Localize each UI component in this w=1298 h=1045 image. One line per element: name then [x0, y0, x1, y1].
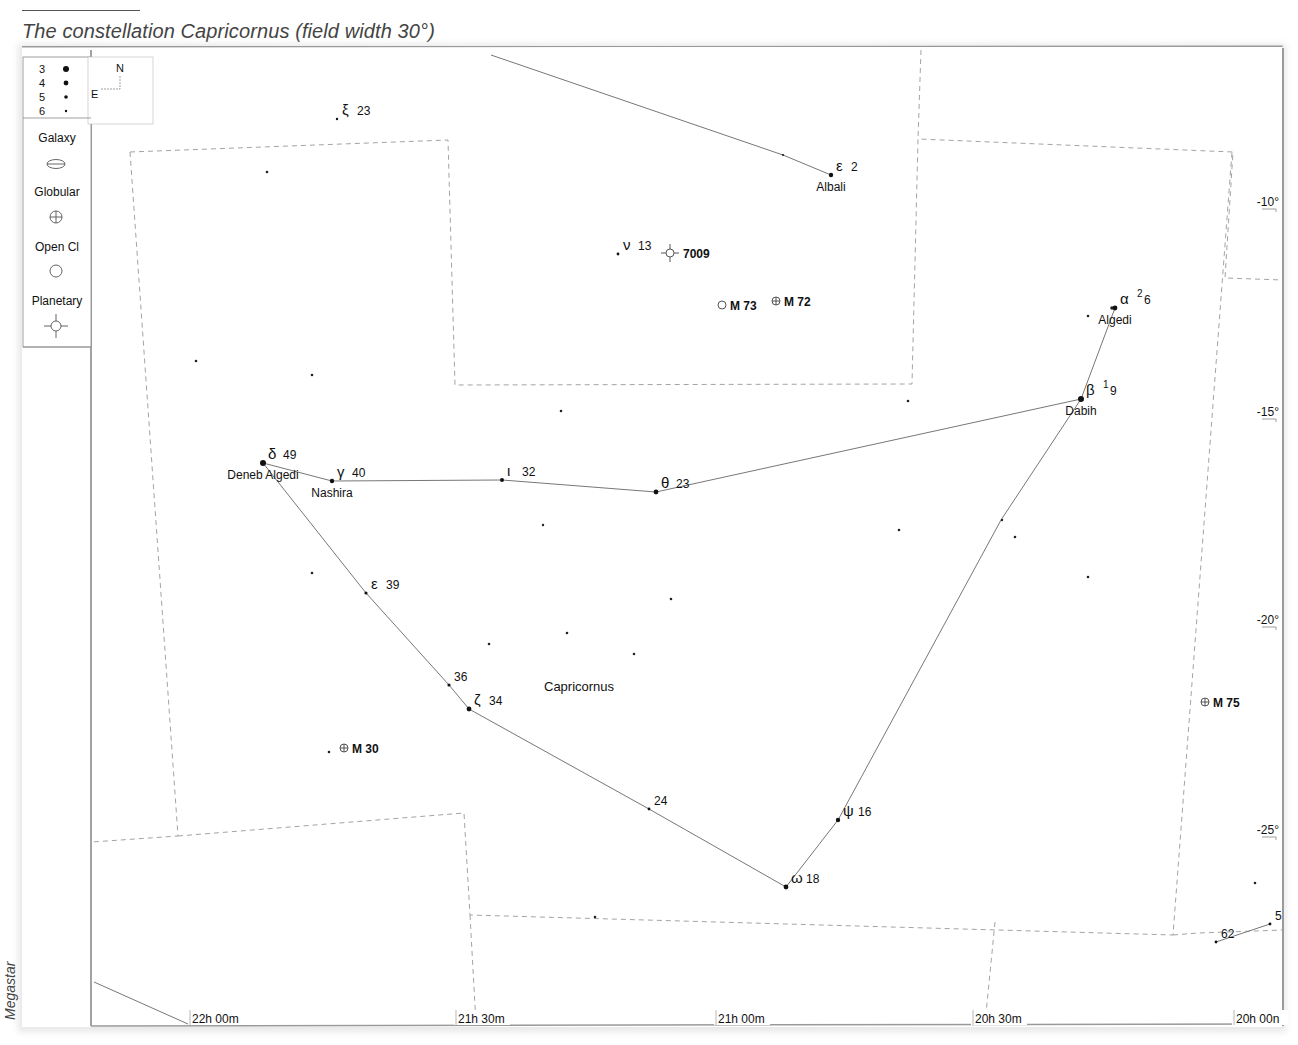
boundary-segment: [178, 152, 1232, 935]
globular-cluster-icon: [50, 211, 62, 223]
field-star: [1001, 519, 1003, 521]
star-superscript: 2: [1137, 288, 1143, 299]
star-superscript: 1: [1103, 379, 1109, 390]
star-dot: [260, 460, 266, 466]
field-star: [328, 751, 331, 754]
dso-7009: 7009: [661, 244, 710, 262]
constellation-figure-lines: [94, 55, 1270, 1024]
legend-planetary-label: Planetary: [32, 294, 83, 308]
field-star: [1254, 882, 1257, 885]
star-greek-letter: α: [1120, 290, 1129, 307]
dec-axis-label: -10°: [1257, 195, 1279, 209]
boundary-segment: [92, 152, 178, 842]
star-flamsteed-number: 36: [454, 670, 468, 684]
dso-label: 7009: [683, 247, 710, 261]
dec-axis-label: -25°: [1257, 823, 1279, 837]
star-epsilon-39: ε39: [364, 575, 399, 595]
boundary-segment: [985, 922, 995, 1024]
star-flamsteed-number: 32: [522, 465, 536, 479]
dso-m73: M 73: [718, 299, 757, 313]
field-star: [542, 524, 544, 526]
star-24: 24: [648, 794, 668, 810]
star-dot: [330, 479, 334, 483]
magnitude-label: 5: [39, 91, 45, 103]
field-star: [898, 529, 901, 532]
compass-east-label: E: [91, 88, 98, 100]
star-proper-name: Nashira: [311, 486, 353, 500]
star-flamsteed-number: 24: [654, 794, 668, 808]
dso-label: M 72: [784, 295, 811, 309]
legend: 3456 N E Galaxy Globular Open Cl Planeta…: [23, 57, 153, 347]
magnitude-label: 6: [39, 105, 45, 117]
star-dot: [836, 818, 840, 822]
ra-axis-label: 20h 00n: [1236, 1012, 1279, 1026]
legend-galaxy-label: Galaxy: [38, 131, 75, 145]
star-flamsteed-number: 6: [1144, 293, 1151, 307]
star-zeta: ζ34: [467, 691, 503, 711]
planetary-nebula-icon: [666, 249, 674, 257]
star-dot: [648, 808, 651, 811]
star-flamsteed-number: 23: [676, 477, 690, 491]
star-dot: [364, 591, 367, 594]
dso-label: M 30: [352, 742, 379, 756]
field-star: [566, 632, 569, 635]
figure-line: [263, 308, 1115, 887]
star-xi: ξ23: [336, 101, 371, 120]
legend-open-cluster-label: Open Cl: [35, 240, 79, 254]
star-dot: [447, 683, 450, 686]
dec-axis-label: -15°: [1257, 405, 1279, 419]
star-5x: 5: [1269, 909, 1282, 925]
star-proper-name: Algedi: [1098, 313, 1131, 327]
star-flamsteed-number: 13: [638, 239, 652, 253]
dso-m72: M 72: [772, 295, 811, 309]
star-dot: [654, 490, 659, 495]
star-greek-letter: ι: [507, 462, 510, 479]
field-star: [633, 653, 636, 656]
star-dot: [500, 478, 504, 482]
boundary-segment: [470, 915, 476, 1024]
star-flamsteed-number: 16: [858, 805, 872, 819]
star-36: 36: [447, 670, 467, 687]
figure-line: [94, 982, 188, 1024]
ra-axis-label: 21h 00m: [718, 1012, 765, 1026]
star-omega: ω18: [784, 869, 820, 889]
star-greek-letter: θ: [661, 474, 669, 491]
ra-axis-label: 22h 00m: [192, 1012, 239, 1026]
field-star: [1014, 536, 1017, 539]
constellation-name-label: Capricornus: [544, 679, 615, 694]
star-flamsteed-number: 49: [283, 448, 297, 462]
star-dot: [1269, 923, 1272, 926]
field-star: [195, 360, 198, 363]
star-greek-letter: δ: [268, 445, 276, 462]
star-flamsteed-number: 5: [1275, 909, 1282, 923]
star-epsilon-2: ε2Albali: [816, 157, 858, 194]
star-beta: β19Dabih: [1065, 379, 1117, 418]
ra-axis-label: 20h 30m: [975, 1012, 1022, 1026]
star-dot: [617, 253, 620, 256]
star-greek-letter: ε: [371, 575, 378, 592]
star-flamsteed-number: 2: [851, 160, 858, 174]
figure-line: [491, 55, 831, 175]
star-flamsteed-number: 34: [489, 694, 503, 708]
star-dot: [1113, 306, 1118, 311]
magnitude-dot-icon: [64, 81, 69, 86]
field-star: [1087, 576, 1090, 579]
field-star: [560, 410, 563, 413]
legend-globular-label: Globular: [34, 185, 79, 199]
field-star: [311, 572, 314, 575]
field-star: [594, 916, 597, 919]
star-dot: [336, 118, 338, 120]
star-dot: [784, 885, 789, 890]
star-proper-name: Albali: [816, 180, 845, 194]
star-flamsteed-number: 18: [806, 872, 820, 886]
star-greek-letter: ζ: [474, 691, 481, 708]
field-star: [488, 643, 491, 646]
star-dot: [829, 173, 833, 177]
star-flamsteed-number: 40: [352, 466, 366, 480]
field-star: [782, 154, 784, 156]
star-greek-letter: ω: [791, 869, 803, 886]
star-greek-letter: ν: [623, 236, 631, 253]
star-dot: [1215, 941, 1218, 944]
star-dot: [467, 707, 472, 712]
star-greek-letter: ψ: [843, 802, 854, 819]
